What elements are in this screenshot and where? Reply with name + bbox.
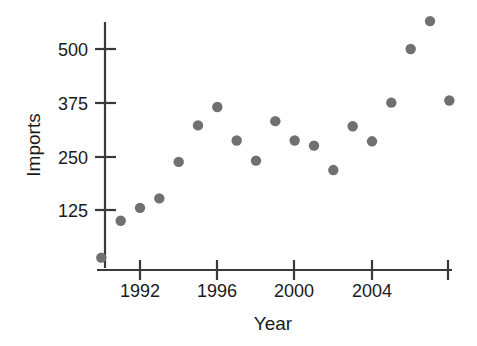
data-point bbox=[289, 135, 299, 145]
y-axis-title: Imports bbox=[23, 113, 44, 176]
y-tick-label-500: 500 bbox=[58, 40, 88, 60]
data-point bbox=[309, 140, 319, 150]
x-tick-labels: 1992 1996 2000 2004 bbox=[120, 281, 392, 301]
chart-screenshot: 500 375 250 125 1992 1996 2000 2004 Impo… bbox=[0, 0, 477, 346]
x-tick-label-2000: 2000 bbox=[274, 281, 314, 301]
x-tick-label-1996: 1996 bbox=[197, 281, 237, 301]
y-tick-label-375: 375 bbox=[58, 94, 88, 114]
y-tick-label-250: 250 bbox=[58, 148, 88, 168]
data-point bbox=[115, 216, 125, 226]
data-points-layer bbox=[96, 16, 454, 263]
data-point bbox=[173, 157, 183, 167]
data-point bbox=[135, 203, 145, 213]
scatter-plot: 500 375 250 125 1992 1996 2000 2004 Impo… bbox=[0, 0, 477, 346]
data-point bbox=[270, 116, 280, 126]
data-point bbox=[251, 155, 261, 165]
y-tick-labels: 500 375 250 125 bbox=[58, 40, 88, 221]
x-axis-title: Year bbox=[254, 313, 293, 334]
data-point bbox=[444, 95, 454, 105]
data-point bbox=[96, 252, 106, 262]
y-tick-label-125: 125 bbox=[58, 201, 88, 221]
data-point bbox=[425, 16, 435, 26]
data-point bbox=[367, 136, 377, 146]
x-tick-label-2004: 2004 bbox=[352, 281, 392, 301]
data-point bbox=[231, 135, 241, 145]
data-point bbox=[212, 102, 222, 112]
data-point bbox=[347, 121, 357, 131]
data-point bbox=[328, 165, 338, 175]
data-point bbox=[193, 120, 203, 130]
data-point bbox=[154, 193, 164, 203]
data-point bbox=[405, 44, 415, 54]
data-point bbox=[386, 97, 396, 107]
x-tick-label-1992: 1992 bbox=[120, 281, 160, 301]
